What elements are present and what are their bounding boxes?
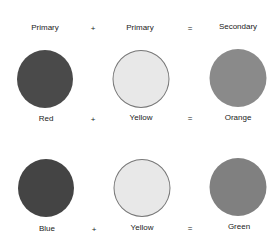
blue-circle: [18, 159, 74, 217]
label-yellow: Yellow: [131, 223, 154, 232]
header-secondary: Secondary: [219, 22, 257, 31]
label-orange: Orange: [225, 113, 252, 122]
header-primary-1: Primary: [31, 23, 59, 32]
equals-operator: =: [188, 224, 193, 233]
label-green: Green: [228, 222, 250, 231]
label-red: Red: [39, 114, 54, 123]
yellow-circle: [113, 50, 170, 108]
equals-operator: =: [188, 24, 193, 33]
plus-operator: +: [91, 115, 96, 124]
green-circle: [210, 158, 267, 216]
label-blue: Blue: [39, 224, 55, 233]
red-circle: [17, 50, 73, 108]
plus-operator: +: [92, 225, 97, 234]
header-primary-2: Primary: [126, 23, 154, 32]
plus-operator: +: [91, 24, 96, 33]
equals-operator: =: [188, 114, 193, 123]
orange-circle: [210, 49, 267, 107]
yellow-circle: [114, 159, 171, 217]
label-yellow: Yellow: [130, 113, 153, 122]
